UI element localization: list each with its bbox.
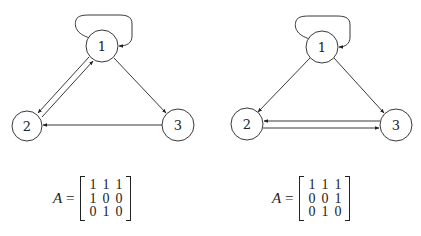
left-adjacency-matrix: A = 1 1 1 1 0 0 0 1 0 <box>53 176 131 221</box>
left-edge-2-to-1 <box>42 61 93 117</box>
matrix-lhs: A = <box>272 190 293 207</box>
matrix-brackets: 1 1 1 0 0 1 0 1 0 <box>299 176 350 221</box>
right-adjacency-matrix: A = 1 1 1 0 0 1 0 1 0 <box>272 176 350 221</box>
right-node-2-label: 2 <box>243 117 251 132</box>
matrix-cell: 0 <box>308 205 315 219</box>
equals-sign: = <box>66 190 74 206</box>
matrix-lhs: A = <box>53 190 74 207</box>
left-node-3-label: 3 <box>174 118 182 133</box>
matrix-row: 0 1 0 <box>89 205 122 219</box>
right-edge-1-to-2 <box>258 58 310 112</box>
matrix-cell: 0 <box>115 192 122 206</box>
matrix-row: 1 1 1 <box>308 178 341 192</box>
matrix-row: 0 1 0 <box>308 205 341 219</box>
left-graph: 1 2 3 <box>12 15 194 141</box>
matrix-row: 1 1 1 <box>89 178 122 192</box>
left-node-2-label: 2 <box>23 119 31 134</box>
equals-sign: = <box>285 190 293 206</box>
matrix-cell: 1 <box>89 192 96 206</box>
matrix-cell: 1 <box>321 205 328 219</box>
matrix-cell: 1 <box>102 205 109 219</box>
matrix-cell: 1 <box>321 178 328 192</box>
matrix-cell: 0 <box>115 205 122 219</box>
left-node-1-label: 1 <box>98 39 106 54</box>
matrix-row: 1 0 0 <box>89 192 122 206</box>
matrix-cell: 1 <box>102 178 109 192</box>
matrix-cell: 0 <box>308 192 315 206</box>
matrix-variable: A <box>53 190 62 206</box>
right-graph: 1 2 3 <box>231 16 412 141</box>
matrix-cell: 1 <box>334 178 341 192</box>
matrix-cell: 1 <box>115 178 122 192</box>
matrix-cell: 0 <box>334 205 341 219</box>
matrix-cell: 0 <box>321 192 328 206</box>
right-edge-1-to-3 <box>334 58 384 113</box>
matrix-cell: 0 <box>89 205 96 219</box>
matrix-cell: 0 <box>102 192 109 206</box>
left-edge-1-to-3 <box>114 58 166 113</box>
left-edge-1-to-2 <box>38 57 89 113</box>
right-node-1-label: 1 <box>318 40 326 55</box>
matrix-cell: 1 <box>308 178 315 192</box>
matrix-cell: 1 <box>89 178 96 192</box>
matrix-row: 0 0 1 <box>308 192 341 206</box>
matrix-variable: A <box>272 190 281 206</box>
right-node-3-label: 3 <box>392 118 400 133</box>
matrix-cell: 1 <box>334 192 341 206</box>
matrix-brackets: 1 1 1 1 0 0 0 1 0 <box>80 176 131 221</box>
